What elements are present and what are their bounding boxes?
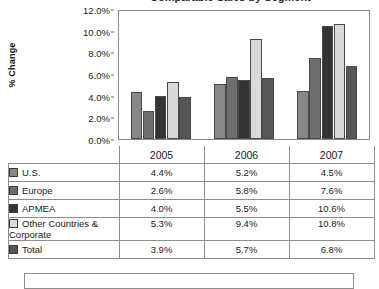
- bar: [262, 78, 274, 139]
- table-row: U.S.4.4%5.2%4.5%: [9, 164, 375, 182]
- legend-label-text: APMEA: [22, 203, 55, 214]
- table-cell-value: 5.3%: [119, 218, 204, 241]
- table-cell-value: 5.2%: [204, 164, 289, 182]
- table-cell-value: 5.7%: [204, 241, 289, 259]
- bar-group-2007: [286, 11, 369, 139]
- y-axis-title: % Change: [7, 35, 17, 95]
- legend-row-label: Total: [9, 241, 120, 259]
- y-tick-label: 8.0%: [88, 48, 110, 59]
- table-header-row: 2005 2006 2007: [9, 146, 375, 164]
- plot-area: [118, 10, 370, 140]
- table-header-blank: [9, 146, 120, 164]
- bar: [143, 111, 155, 139]
- y-tick-mark: [111, 31, 114, 32]
- table-row: APMEA4.0%5.5%10.6%: [9, 200, 375, 218]
- table-cell-value: 5.5%: [204, 200, 289, 218]
- table-cell-value: 4.0%: [119, 200, 204, 218]
- data-table: 2005 2006 2007 U.S.4.4%5.2%4.5%Europe2.6…: [8, 146, 375, 259]
- legend-label-text: Europe: [22, 185, 53, 196]
- legend-row-label: APMEA: [9, 200, 120, 218]
- table-cell-value: 9.4%: [204, 218, 289, 241]
- y-tick-mark: [111, 140, 114, 141]
- table-cell-value: 10.8%: [289, 218, 374, 241]
- table-cell-value: 10.6%: [289, 200, 374, 218]
- table-row: Europe2.6%5.8%7.6%: [9, 182, 375, 200]
- chart-title: Comparable Sales by Segment: [150, 0, 311, 3]
- bars-container: [119, 11, 369, 139]
- legend-row-label: Europe: [9, 182, 120, 200]
- bar: [309, 58, 321, 139]
- legend-row-label: U.S.: [9, 164, 120, 182]
- y-tick-mark: [111, 96, 114, 97]
- y-tick-mark: [111, 53, 114, 54]
- bar: [346, 66, 358, 139]
- legend-swatch-icon: [9, 186, 18, 195]
- y-tick-mark: [111, 10, 114, 11]
- bar-group-2005: [119, 11, 202, 139]
- bar: [334, 24, 346, 139]
- footer-box-cutoff: [24, 273, 354, 289]
- bar: [214, 84, 226, 139]
- table-cell-value: 5.8%: [204, 182, 289, 200]
- bar-group-2006: [202, 11, 285, 139]
- legend-label-text: U.S.: [22, 167, 40, 178]
- legend-swatch-icon: [9, 219, 18, 228]
- table-header-2007: 2007: [289, 146, 374, 164]
- legend-swatch-icon: [9, 168, 18, 177]
- legend-row-label: Other Countries & Corporate: [9, 218, 120, 241]
- data-table-wrapper: 2005 2006 2007 U.S.4.4%5.2%4.5%Europe2.6…: [8, 146, 370, 259]
- y-tick-label: 10.0%: [83, 26, 110, 37]
- table-cell-value: 2.6%: [119, 182, 204, 200]
- legend-label-text: Other Countries & Corporate: [9, 218, 98, 240]
- y-tick-label: 2.0%: [88, 113, 110, 124]
- table-header-2005: 2005: [119, 146, 204, 164]
- bar: [226, 77, 238, 139]
- y-tick-label: 0.0%: [88, 135, 110, 146]
- bar-chart: % Change 0.0%2.0%4.0%6.0%8.0%10.0%12.0%: [0, 8, 379, 142]
- legend-swatch-icon: [9, 245, 18, 254]
- legend-label-text: Total: [22, 244, 42, 255]
- table-cell-value: 4.4%: [119, 164, 204, 182]
- y-tick-label: 6.0%: [88, 70, 110, 81]
- y-axis-tick-labels: 0.0%2.0%4.0%6.0%8.0%10.0%12.0%: [74, 8, 114, 142]
- bar: [322, 26, 334, 139]
- bar: [250, 39, 262, 139]
- y-tick-mark: [111, 118, 114, 119]
- table-row: Total3.9%5.7%6.8%: [9, 241, 375, 259]
- table-cell-value: 4.5%: [289, 164, 374, 182]
- bar: [131, 92, 143, 139]
- bar: [167, 82, 179, 139]
- bar: [238, 80, 250, 139]
- table-header-2006: 2006: [204, 146, 289, 164]
- table-cell-value: 3.9%: [119, 241, 204, 259]
- bar: [179, 97, 191, 139]
- y-tick-label: 12.0%: [83, 5, 110, 16]
- table-cell-value: 7.6%: [289, 182, 374, 200]
- chart-title-strip: Comparable Sales by Segment: [0, 0, 379, 7]
- table-cell-value: 6.8%: [289, 241, 374, 259]
- bar: [297, 91, 309, 139]
- legend-swatch-icon: [9, 204, 18, 213]
- table-body: U.S.4.4%5.2%4.5%Europe2.6%5.8%7.6%APMEA4…: [9, 164, 375, 259]
- y-tick-label: 4.0%: [88, 91, 110, 102]
- bar: [155, 96, 167, 139]
- y-tick-mark: [111, 75, 114, 76]
- table-row: Other Countries & Corporate5.3%9.4%10.8%: [9, 218, 375, 241]
